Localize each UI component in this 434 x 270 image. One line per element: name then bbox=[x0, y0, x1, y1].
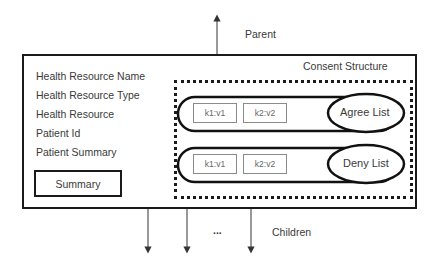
deny-pair-2: k2:v2 bbox=[243, 154, 287, 174]
agree-list-label: Agree List bbox=[340, 106, 390, 118]
agree-pair-1: k1:v1 bbox=[193, 103, 237, 123]
consent-structure-box bbox=[174, 80, 413, 199]
field-patient-id: Patient Id bbox=[36, 127, 80, 139]
parent-label: Parent bbox=[245, 28, 276, 40]
agree-pair-2: k2:v2 bbox=[243, 103, 287, 123]
deny-pair-1: k1:v1 bbox=[193, 154, 237, 174]
field-patient-summary: Patient Summary bbox=[36, 146, 117, 158]
consent-structure-label: Consent Structure bbox=[303, 60, 388, 72]
field-health-resource: Health Resource bbox=[36, 108, 114, 120]
summary-box: Summary bbox=[34, 170, 122, 197]
children-ellipsis: ... bbox=[213, 224, 222, 236]
deny-list-label: Deny List bbox=[343, 157, 389, 169]
children-label: Children bbox=[272, 226, 311, 238]
field-health-resource-type: Health Resource Type bbox=[36, 89, 140, 101]
field-health-resource-name: Health Resource Name bbox=[36, 70, 145, 82]
summary-label: Summary bbox=[56, 178, 101, 190]
